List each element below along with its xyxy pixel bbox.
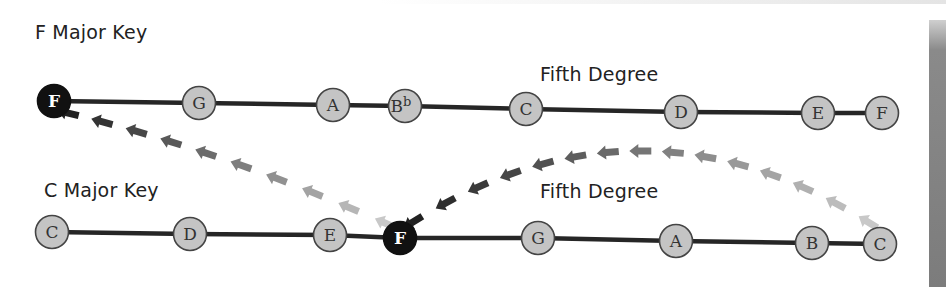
note-node-bottom-e: E: [314, 219, 347, 252]
arrow-icon: [264, 168, 290, 189]
note-label: F: [394, 228, 406, 248]
top-scale-line: [54, 101, 882, 113]
note-node-top-g: G: [183, 87, 216, 120]
arrow-icon: [758, 164, 783, 185]
arrow-icon: [124, 121, 149, 141]
note-node-bottom-a: A: [660, 225, 693, 258]
note-label: A: [669, 231, 683, 251]
arrow-icon: [822, 192, 848, 215]
note-label: C: [45, 222, 58, 242]
note-node-bottom-c: C: [864, 228, 897, 261]
note-node-bottom-f: F: [384, 222, 417, 255]
note-node-bottom-d: D: [174, 218, 207, 251]
arrow-icon: [725, 154, 750, 173]
note-label: F: [876, 103, 888, 123]
arrow-icon: [661, 144, 684, 160]
f-major-key-title: F Major Key: [35, 21, 147, 43]
arrow-icon: [530, 154, 555, 173]
note-label: A: [326, 95, 340, 115]
note-node-bottom-g: G: [522, 222, 555, 255]
scale-comparison-diagram: FGABbCDEFCDEFGABC F Major Key Fifth Degr…: [0, 0, 946, 287]
scale-lines: [52, 101, 882, 244]
note-label: E: [324, 225, 336, 245]
note-label: G: [192, 93, 206, 113]
note-node-top-c: C: [510, 93, 543, 126]
arrow-icon: [790, 176, 816, 198]
arrow-paths: [56, 104, 881, 234]
arrow-icon: [228, 155, 253, 176]
arrow-path-bottom-F-to-top-F: [56, 104, 398, 234]
note-label: E: [812, 103, 824, 123]
note-node-top-a: A: [317, 89, 350, 122]
note-label: C: [519, 99, 532, 119]
arrow-icon: [596, 144, 619, 160]
arrow-icon: [498, 164, 523, 185]
arrow-icon: [193, 143, 218, 163]
note-node-top-d: D: [665, 96, 698, 129]
arrow-icon: [432, 192, 458, 215]
arrow-icon: [629, 144, 651, 158]
c-major-key-title: C Major Key: [44, 179, 159, 201]
fifth-degree-label-bottom: Fifth Degree: [540, 180, 658, 202]
note-label: D: [674, 102, 688, 122]
note-label: D: [183, 224, 197, 244]
arrow-icon: [693, 148, 717, 166]
fifth-degree-label-top: Fifth Degree: [540, 63, 658, 85]
arrow-icon: [89, 112, 114, 131]
note-node-top-b-flat: Bb: [389, 90, 422, 123]
note-label: F: [48, 91, 60, 111]
arrow-icon: [563, 148, 587, 166]
arrow-icon: [158, 132, 183, 152]
arrow-icon: [465, 176, 491, 198]
note-node-bottom-b: B: [796, 227, 829, 260]
note-node-bottom-c: C: [36, 216, 69, 249]
page-edge-bar: [929, 20, 946, 287]
arrow-icon: [336, 196, 362, 217]
note-node-top-f: F: [38, 85, 71, 118]
diagram-canvas: FGABbCDEFCDEFGABC: [0, 0, 946, 287]
note-label: G: [531, 228, 545, 248]
note-node-top-f: F: [866, 97, 899, 130]
note-label: B: [806, 233, 819, 253]
note-label: C: [873, 234, 886, 254]
note-node-top-e: E: [802, 97, 835, 130]
arrow-icon: [299, 182, 325, 203]
